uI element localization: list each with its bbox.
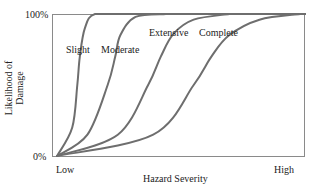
x-tick-high: High bbox=[274, 165, 294, 175]
y-axis-label-line2: Damage bbox=[14, 61, 25, 116]
series-label-extensive: Extensive bbox=[149, 28, 188, 38]
x-tick-low: Low bbox=[56, 165, 74, 175]
x-axis-label: Hazard Severity bbox=[143, 174, 208, 184]
y-tick-0: 0% bbox=[33, 152, 46, 162]
y-axis-label-line1: Likelihood of bbox=[3, 61, 14, 116]
series-label-complete: Complete bbox=[199, 28, 238, 38]
y-tick-100: 100% bbox=[25, 10, 48, 20]
series-label-slight: Slight bbox=[66, 45, 90, 55]
series-label-moderate: Moderate bbox=[101, 45, 139, 55]
y-axis-label: Likelihood of Damage bbox=[3, 61, 25, 116]
